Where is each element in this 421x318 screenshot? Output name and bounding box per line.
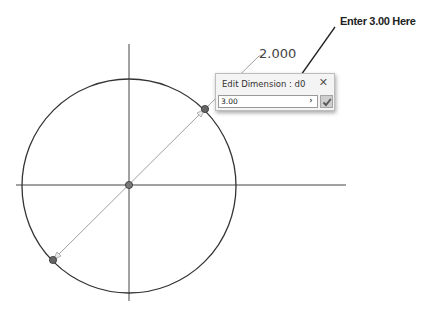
dimension-value-input[interactable] — [221, 96, 305, 107]
dimension-input-wrapper: › — [218, 95, 318, 108]
dialog-title: Edit Dimension : d0 — [222, 79, 305, 89]
accept-button[interactable] — [320, 95, 333, 108]
close-icon[interactable]: ✕ — [319, 76, 328, 90]
edit-dimension-dialog: Edit Dimension : d0 ✕ › — [215, 73, 335, 111]
center-point[interactable] — [125, 181, 132, 188]
chevron-right-icon[interactable]: › — [306, 95, 316, 107]
grip-point-upper[interactable] — [201, 105, 208, 112]
grip-point-lower[interactable] — [49, 256, 56, 263]
sketch-canvas[interactable] — [0, 0, 421, 318]
dimension-value-label[interactable]: 2.000 — [259, 46, 296, 61]
checkmark-icon — [322, 97, 332, 107]
annotation-text: Enter 3.00 Here — [340, 15, 416, 27]
